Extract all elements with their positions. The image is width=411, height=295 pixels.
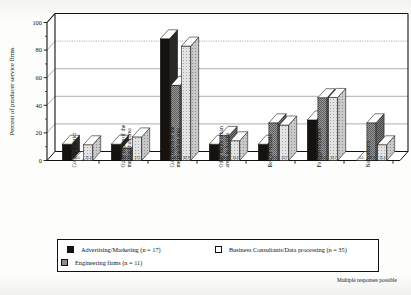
x-category-label: Other major urban [218, 126, 224, 168]
x-category-label: Rest of Austria [267, 133, 273, 167]
y-tick-label: 0 [39, 157, 42, 164]
bar-value-label: 11.4 [86, 156, 92, 160]
legend-swatch-business-consultants [215, 246, 222, 253]
bar-value-label: 45.7 [330, 156, 336, 160]
y-tick-label: 80 [36, 46, 42, 53]
bar-6-series-3 [329, 88, 346, 160]
x-category-label: metropolitan area [175, 128, 181, 168]
bar-value-label: 14.3 [232, 156, 238, 160]
bar-5-series-3 [280, 116, 297, 160]
bar-value-label: 0.0 [359, 156, 364, 160]
y-tick-label: 100 [32, 19, 42, 26]
bar-value-label: 25.7 [281, 156, 287, 160]
y-axis-title-text: Percent of producer service firms [8, 47, 15, 135]
x-category-label: County/District [71, 132, 77, 167]
y-tick-label: 40 [36, 102, 42, 109]
x-category-label: areas in Austria [224, 132, 230, 167]
y-axis-title: Percent of producer service firms [8, 47, 15, 135]
chart-legend: Advertising/Marketing (n = 17) Business … [57, 239, 379, 272]
legend-label-engineering: Engineering firms (n = 11) [75, 259, 142, 266]
legend-swatch-advertising [67, 246, 74, 253]
bar-value-label: 17.1 [134, 156, 140, 160]
y-tick-label: 60 [36, 74, 42, 81]
x-category-label: No contacts [365, 141, 371, 168]
x-category-label: Foreign countries [316, 128, 322, 167]
bar-value-label: 82.9 [183, 156, 189, 160]
bar-chart-plot: 11.80.011.411.89.117.188.254.582.911.818… [0, 0, 411, 236]
bar-3-series-3 [182, 37, 199, 160]
legend-label-business-consultants: Business Consultants/Data processing (n … [229, 246, 347, 253]
legend-label-advertising: Advertising/Marketing (n = 17) [81, 246, 161, 253]
legend-item-engineering: Engineering firms (n = 11) [61, 259, 142, 266]
y-tick-label: 20 [36, 129, 42, 136]
chart-footnote: Multiple responses possible [337, 277, 397, 283]
x-category-label: Core region of the [169, 126, 175, 167]
x-category-label: Outer region of the [120, 124, 126, 167]
x-category-label: metropolitan area [126, 128, 132, 168]
legend-swatch-engineering [61, 259, 68, 266]
y-axis-ticks: 020406080100 [32, 19, 42, 164]
chart-figure: 11.80.011.411.89.117.188.254.582.911.818… [0, 0, 411, 295]
bar-value-label: 11.4 [380, 156, 386, 160]
legend-item-advertising: Advertising/Marketing (n = 17) [67, 246, 161, 253]
legend-item-business-consultants: Business Consultants/Data processing (n … [215, 246, 347, 253]
